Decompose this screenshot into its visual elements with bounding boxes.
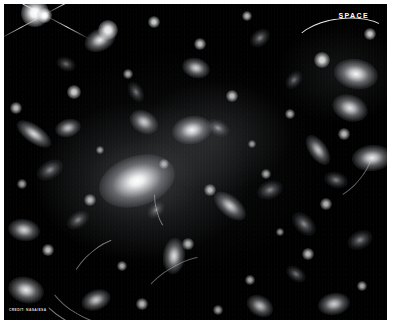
image-credit-text: CREDIT: NASA/ESA <box>9 308 46 312</box>
sky-image: SPACE CREDIT: NASA/ESA <box>4 4 387 320</box>
photo-frame: SPACE CREDIT: NASA/ESA <box>0 0 397 331</box>
